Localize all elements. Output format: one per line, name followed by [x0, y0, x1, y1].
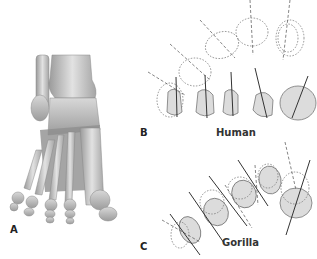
foot-bones-illustration	[0, 0, 140, 259]
caption-human: Human	[216, 127, 256, 138]
panel-c-gorilla: C Gorilla	[140, 140, 317, 259]
panel-label-c: C	[140, 241, 147, 252]
panel-b-human: B Human	[140, 0, 317, 140]
panel-a-foot-skeleton: A	[0, 0, 140, 259]
human-metatarsal-sections	[140, 0, 317, 140]
panel-label-a: A	[10, 224, 18, 235]
panel-label-b: B	[140, 127, 148, 138]
caption-gorilla: Gorilla	[222, 237, 259, 248]
